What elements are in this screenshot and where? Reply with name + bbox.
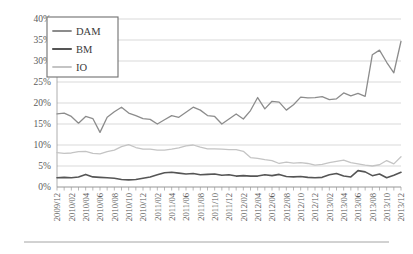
x-axis-tick-label: 2010/08	[110, 193, 120, 221]
y-axis-tick-label: 10%	[34, 140, 52, 150]
legend-label-bm: BM	[76, 44, 93, 55]
x-axis-tick-label: 2012/06	[267, 192, 277, 221]
x-axis-tick-label-group: 2012/06	[267, 192, 277, 221]
x-axis-tick-label-group: 2012/12	[310, 193, 320, 221]
x-axis-tick-label-group: 2011/06	[181, 192, 191, 221]
x-axis-tick-label: 2009/12	[52, 193, 62, 221]
x-axis-tick-label: 2010/06	[95, 192, 105, 221]
y-axis-tick-label: 20%	[34, 98, 52, 108]
x-axis-tick-label-group: 2011/10	[210, 193, 220, 221]
x-axis-tick-label-group: 2010/12	[138, 193, 148, 221]
y-axis-tick-label: 25%	[34, 77, 52, 87]
x-axis-tick-label-group: 2013/04	[339, 192, 349, 221]
x-axis-tick-label-group: 2011/04	[167, 192, 177, 221]
x-axis-tick-label-group: 2009/12	[52, 193, 62, 221]
x-axis-tick-label: 2011/06	[181, 192, 191, 221]
x-axis-tick-label-group: 2010/02	[67, 193, 77, 221]
x-axis-tick-label-group: 2013/02	[325, 193, 335, 221]
x-axis-tick-label-group: 2010/10	[124, 193, 134, 221]
x-axis-tick-label-group: 2010/06	[95, 192, 105, 221]
x-axis-tick-label: 2011/04	[167, 192, 177, 221]
y-axis-tick-label: 15%	[34, 119, 52, 129]
x-axis-tick-label-group: 2012/02	[239, 193, 249, 221]
x-axis-tick-label-group: 2011/02	[153, 193, 163, 221]
x-axis-tick-label: 2013/02	[325, 193, 335, 221]
series-line-io	[57, 145, 401, 166]
x-axis-tick-label: 2010/02	[67, 193, 77, 221]
x-axis-tick-label: 2010/04	[81, 192, 91, 221]
chart-container: 0%5%10%15%20%25%30%35%40%2009/122010/022…	[0, 0, 413, 254]
x-axis-tick-label: 2013/10	[382, 193, 392, 221]
x-axis-tick-label-group: 2013/10	[382, 193, 392, 221]
x-axis-tick-label: 2012/04	[253, 192, 263, 221]
x-axis-tick-label-group: 2013/12	[396, 193, 406, 221]
y-axis-tick-label: 5%	[38, 161, 51, 171]
x-axis-tick-label: 2012/02	[239, 193, 249, 221]
x-axis-tick-label: 2013/04	[339, 192, 349, 221]
x-axis-tick-label-group: 2012/04	[253, 192, 263, 221]
x-axis-tick-label: 2013/12	[396, 193, 406, 221]
x-axis-tick-label: 2012/10	[296, 193, 306, 221]
x-axis-tick-label: 2010/12	[138, 193, 148, 221]
x-axis-tick-label-group: 2010/08	[110, 193, 120, 221]
series-line-bm	[57, 171, 401, 180]
x-axis-tick-label-group: 2013/08	[368, 193, 378, 221]
legend-label-io: IO	[76, 62, 87, 73]
x-axis-tick-label-group: 2012/08	[282, 193, 292, 221]
x-axis-tick-label-group: 2010/04	[81, 192, 91, 221]
line-chart: 0%5%10%15%20%25%30%35%40%2009/122010/022…	[0, 0, 413, 254]
x-axis-tick-label: 2011/10	[210, 193, 220, 221]
x-axis-tick-label-group: 2013/06	[353, 192, 363, 221]
x-axis-tick-label: 2012/08	[282, 193, 292, 221]
x-axis-tick-label-group: 2012/10	[296, 193, 306, 221]
x-axis-tick-label: 2010/10	[124, 193, 134, 221]
x-axis-tick-label: 2011/02	[153, 193, 163, 221]
x-axis-tick-label-group: 2011/08	[196, 193, 206, 221]
x-axis-tick-label: 2013/06	[353, 192, 363, 221]
x-axis-tick-label: 2011/08	[196, 193, 206, 221]
y-axis-tick-label: 0%	[38, 182, 51, 192]
x-axis-tick-label: 2013/08	[368, 193, 378, 221]
x-axis-tick-label-group: 2011/12	[224, 193, 234, 221]
legend-label-dam: DAM	[76, 26, 101, 37]
x-axis-tick-label: 2011/12	[224, 193, 234, 221]
x-axis-tick-label: 2012/12	[310, 193, 320, 221]
